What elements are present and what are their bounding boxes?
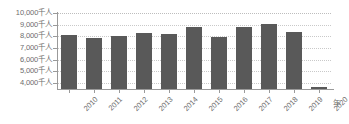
y-axis-tick-label: 8,000千人 <box>0 32 52 40</box>
y-axis-tick-label: 9,000千人 <box>0 21 52 29</box>
bar <box>236 27 252 89</box>
x-axis-tick <box>294 89 295 93</box>
x-axis-tick <box>194 89 195 93</box>
x-axis-tick <box>269 89 270 93</box>
x-axis-tick <box>219 89 220 93</box>
x-axis-tick-label: 2018 <box>281 95 299 113</box>
y-axis-tick-label: 7,000千人 <box>0 44 52 52</box>
x-axis-tick-label: 2019 <box>306 95 324 113</box>
y-axis-tick-label: 10,000千人 <box>0 9 52 17</box>
x-axis-tick <box>319 89 320 93</box>
y-axis-tick-label: 5,000千人 <box>0 67 52 75</box>
x-axis-line <box>57 89 334 90</box>
y-axis-tick-label: 4,000千人 <box>0 79 52 87</box>
x-axis-tick-label: 2014 <box>182 95 200 113</box>
x-axis-tick-label: 2010 <box>82 95 100 113</box>
bar <box>261 24 277 89</box>
bar <box>86 38 102 89</box>
x-axis-tick <box>119 89 120 93</box>
bar <box>211 37 227 89</box>
bar <box>286 32 302 89</box>
bars-layer <box>57 13 331 89</box>
x-axis-tick <box>94 89 95 93</box>
bar <box>161 34 177 89</box>
y-axis-tick-label: 6,000千人 <box>0 56 52 64</box>
x-axis-tick-label: 2013 <box>157 95 175 113</box>
y-axis-line <box>57 12 58 90</box>
bar <box>186 27 202 89</box>
x-axis-tick <box>169 89 170 93</box>
x-axis-tick <box>144 89 145 93</box>
x-axis-tick <box>69 89 70 93</box>
bar <box>136 33 152 89</box>
x-axis-tick-label: 2016 <box>232 95 250 113</box>
x-axis-tick-label: 2015 <box>207 95 225 113</box>
x-axis-title: 年 <box>333 97 340 108</box>
x-axis-tick-label: 2011 <box>107 95 124 112</box>
x-axis-tick-label: 2012 <box>132 95 150 113</box>
bar <box>61 35 77 89</box>
x-axis-tick <box>244 89 245 93</box>
x-axis-tick-label: 2017 <box>257 95 275 113</box>
bar <box>111 36 127 89</box>
